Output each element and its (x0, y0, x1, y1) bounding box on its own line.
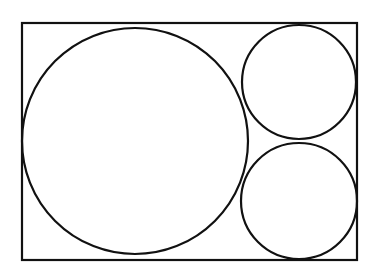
large-circle (22, 28, 248, 254)
bounding-rectangle (22, 23, 357, 260)
diagram-canvas (0, 0, 377, 273)
small-circle-bottom (241, 143, 357, 259)
small-circle-top (242, 25, 356, 139)
